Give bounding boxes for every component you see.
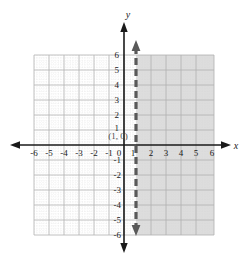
y-tick-6: 6 <box>115 50 120 60</box>
y-tick-4: 4 <box>115 80 120 90</box>
coordinate-plane-svg: x y (1, 0) -6 -5 -4 -3 -2 -1 0 1 2 3 4 5… <box>0 0 250 255</box>
y-tick-minus5: -5 <box>114 215 122 225</box>
x-tick-6: 6 <box>210 148 215 158</box>
x-tick-minus2: -2 <box>90 148 98 158</box>
y-tick-5: 5 <box>115 65 120 75</box>
y-tick-minus6: -6 <box>114 230 122 240</box>
x-tick-3: 3 <box>164 148 169 158</box>
graph-figure: x y (1, 0) -6 -5 -4 -3 -2 -1 0 1 2 3 4 5… <box>0 0 250 255</box>
x-tick-4: 4 <box>179 148 184 158</box>
x-axis-label: x <box>233 140 239 151</box>
y-tick-1: 1 <box>115 123 120 133</box>
x-tick-minus1: -1 <box>105 148 113 158</box>
x-tick-minus4: -4 <box>60 148 68 158</box>
y-tick-minus2: -2 <box>114 170 122 180</box>
y-tick-2: 2 <box>115 110 120 120</box>
x-tick-minus5: -5 <box>45 148 53 158</box>
y-tick-3: 3 <box>115 95 120 105</box>
y-tick-minus4: -4 <box>114 200 122 210</box>
x-tick-minus3: -3 <box>75 148 83 158</box>
y-tick-minus1: -1 <box>114 155 122 165</box>
y-tick-minus3: -3 <box>114 185 122 195</box>
x-tick-5: 5 <box>194 148 199 158</box>
x-tick-1: 1 <box>131 148 136 158</box>
x-tick-2: 2 <box>149 148 154 158</box>
y-axis-label: y <box>125 9 131 20</box>
x-tick-minus6: -6 <box>30 148 38 158</box>
